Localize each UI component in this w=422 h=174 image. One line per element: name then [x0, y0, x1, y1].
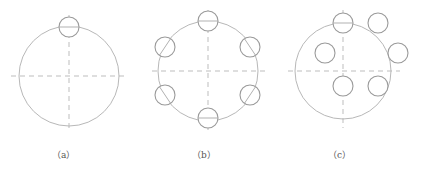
small-circle	[368, 13, 388, 33]
panel-a: （a）	[11, 15, 127, 160]
small-circle	[333, 76, 353, 96]
small-circle	[155, 85, 175, 105]
small-circle	[315, 43, 335, 63]
panel-label: （a）	[52, 150, 75, 160]
small-circle	[198, 108, 218, 128]
cad-array-diagram: （a） （b）	[0, 0, 422, 174]
small-circle	[333, 13, 353, 33]
panel-b: （b）	[152, 10, 266, 160]
small-circle	[388, 43, 408, 63]
panel-label: （c）	[328, 150, 351, 160]
small-circle	[198, 11, 218, 31]
small-circle	[368, 76, 388, 96]
panel-c: （c）	[288, 10, 408, 160]
panel-label: （b）	[192, 150, 216, 160]
small-circle	[155, 37, 175, 57]
small-circle	[240, 37, 260, 57]
small-circle	[59, 17, 79, 37]
small-circle	[240, 85, 260, 105]
